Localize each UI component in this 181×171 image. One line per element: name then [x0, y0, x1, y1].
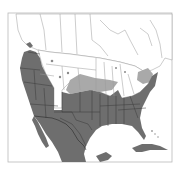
range-map	[0, 0, 181, 171]
